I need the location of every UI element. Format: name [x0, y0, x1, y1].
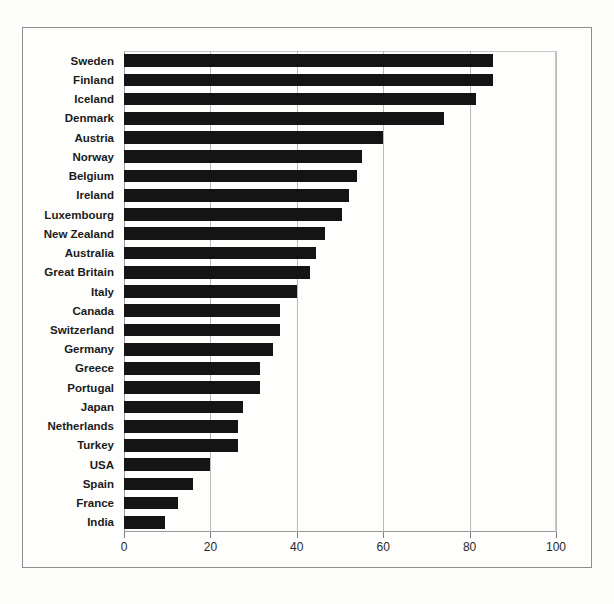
y-axis-label-norway: Norway: [0, 151, 114, 163]
bar-row: [124, 417, 556, 436]
bar: [124, 497, 178, 510]
bar-row: [124, 109, 556, 128]
bar: [124, 247, 316, 260]
x-tick-100: [556, 532, 557, 538]
x-tick-label-0: 0: [94, 540, 154, 554]
y-axis-label-usa: USA: [0, 459, 114, 471]
bar: [124, 131, 383, 144]
x-tick-label-60: 60: [353, 540, 413, 554]
bar-row: [124, 51, 556, 70]
bar-row: [124, 513, 556, 532]
bar: [124, 478, 193, 491]
y-axis-label-new-zealand: New Zealand: [0, 228, 114, 240]
y-axis-label-iceland: Iceland: [0, 93, 114, 105]
bar-row: [124, 436, 556, 455]
y-axis-label-switzerland: Switzerland: [0, 324, 114, 336]
y-axis-label-italy: Italy: [0, 286, 114, 298]
bar-row: [124, 397, 556, 416]
bar: [124, 381, 260, 394]
bar: [124, 74, 493, 87]
bar-row: [124, 378, 556, 397]
y-axis-label-greece: Greece: [0, 362, 114, 374]
bar-row: [124, 70, 556, 89]
bar-row: [124, 128, 556, 147]
y-axis-label-australia: Australia: [0, 247, 114, 259]
bar: [124, 266, 310, 279]
y-axis-label-canada: Canada: [0, 305, 114, 317]
y-axis-label-great-britain: Great Britain: [0, 266, 114, 278]
y-axis-category-labels: SwedenFinlandIcelandDenmarkAustriaNorway…: [22, 51, 120, 532]
bar: [124, 420, 238, 433]
bar: [124, 227, 325, 240]
y-axis-label-spain: Spain: [0, 478, 114, 490]
x-tick-20: [210, 532, 211, 538]
bar-row: [124, 474, 556, 493]
bar-row: [124, 301, 556, 320]
y-axis-label-sweden: Sweden: [0, 55, 114, 67]
bar-row: [124, 224, 556, 243]
bar: [124, 304, 280, 317]
bar: [124, 439, 238, 452]
bar: [124, 324, 280, 337]
bar-row: [124, 340, 556, 359]
y-axis-label-ireland: Ireland: [0, 189, 114, 201]
plot-area: [124, 51, 556, 532]
bar-row: [124, 166, 556, 185]
x-tick-0: [124, 532, 125, 538]
x-axis-ticks: 020406080100: [124, 532, 556, 540]
bar: [124, 458, 210, 471]
x-tick-80: [470, 532, 471, 538]
x-tick-label-100: 100: [526, 540, 586, 554]
bar: [124, 170, 357, 183]
bar: [124, 150, 362, 163]
x-tick-40: [297, 532, 298, 538]
y-axis-label-netherlands: Netherlands: [0, 420, 114, 432]
bar: [124, 362, 260, 375]
y-axis-label-india: India: [0, 516, 114, 528]
bar: [124, 54, 493, 67]
y-axis-label-belgium: Belgium: [0, 170, 114, 182]
y-axis-label-turkey: Turkey: [0, 439, 114, 451]
bar: [124, 93, 476, 106]
x-tick-60: [383, 532, 384, 538]
x-tick-label-20: 20: [180, 540, 240, 554]
bar-row: [124, 320, 556, 339]
bar: [124, 112, 444, 125]
bar: [124, 208, 342, 221]
figure-canvas: SwedenFinlandIcelandDenmarkAustriaNorway…: [0, 0, 614, 604]
bar: [124, 516, 165, 529]
y-axis-label-japan: Japan: [0, 401, 114, 413]
bar-row: [124, 243, 556, 262]
y-axis-label-germany: Germany: [0, 343, 114, 355]
bar-row: [124, 263, 556, 282]
bar-row: [124, 186, 556, 205]
y-axis-label-denmark: Denmark: [0, 112, 114, 124]
bar: [124, 343, 273, 356]
x-tick-label-80: 80: [440, 540, 500, 554]
y-axis-label-austria: Austria: [0, 132, 114, 144]
y-axis-label-finland: Finland: [0, 74, 114, 86]
x-tick-label-40: 40: [267, 540, 327, 554]
bar: [124, 401, 243, 414]
bar: [124, 285, 297, 298]
y-axis-label-france: France: [0, 497, 114, 509]
bar-row: [124, 494, 556, 513]
bar-row: [124, 359, 556, 378]
y-axis-label-luxembourg: Luxembourg: [0, 209, 114, 221]
bar-row: [124, 455, 556, 474]
y-axis-label-portugal: Portugal: [0, 382, 114, 394]
bar: [124, 189, 349, 202]
bar-row: [124, 205, 556, 224]
gridline-100: [556, 51, 557, 532]
bar-row: [124, 147, 556, 166]
bar-series: [124, 51, 556, 532]
bar-row: [124, 89, 556, 108]
bar-row: [124, 282, 556, 301]
